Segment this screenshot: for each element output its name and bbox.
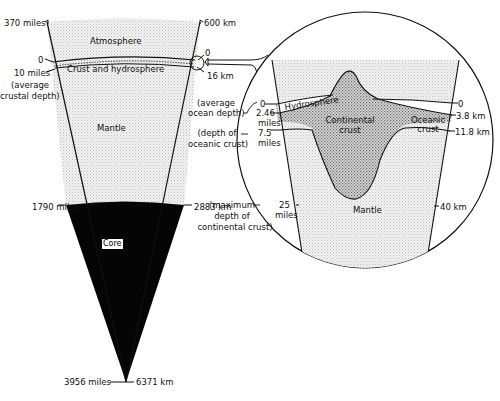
ocean-note-line2: ocean depth): [188, 108, 244, 118]
inset-right-surface: 0: [458, 99, 463, 109]
inset-right-ocean-depth: 3.8 km: [456, 111, 485, 121]
inset-left-oceanic-crust: 7.5: [258, 128, 272, 138]
continental-note-line1: (maximum: [208, 200, 256, 210]
oceanic-note-line1: (depth of: [192, 128, 242, 138]
inset-continental-line1: Continental: [325, 115, 375, 125]
oceanic-note-line2: oceanic crust): [188, 139, 246, 149]
left-scale-center: 3956 miles: [64, 377, 111, 387]
left-scale-surface: 0: [38, 55, 43, 65]
layer-crust-hydrosphere: Crust and hydrosphere: [67, 64, 164, 74]
continental-note-line3: continental crust): [196, 222, 274, 232]
right-scale-center: 6371 km: [136, 377, 174, 387]
inset-right-oceanic-crust: 11.8 km: [455, 127, 490, 137]
right-scale-crust: 16 km: [207, 71, 234, 81]
left-scale-crust: 10 miles: [10, 68, 54, 78]
right-scale-top: 600 km: [204, 18, 236, 28]
left-scale-top: 370 miles: [4, 18, 46, 28]
layer-mantle: Mantle: [97, 123, 126, 133]
layer-atmosphere: Atmosphere: [90, 36, 141, 46]
continental-note-line2: depth of: [208, 211, 256, 221]
crust-note-line1: (average: [4, 80, 56, 90]
earth-layers-diagram: 370 miles 600 km Atmosphere 0 0 Crust an…: [0, 0, 500, 401]
inset-left-ocean-depth-unit: miles: [258, 118, 281, 128]
inset-right-continental-max: 40 km: [440, 202, 467, 212]
inset-left-continental-max: 25: [279, 200, 290, 210]
right-scale-surface: 0: [205, 48, 210, 58]
left-scale-core-boundary: 1790 miles: [32, 202, 79, 212]
layer-core: Core: [102, 239, 123, 249]
inset-left-ocean-depth: 2.46: [256, 108, 275, 118]
inset-left-oceanic-crust-unit: miles: [258, 138, 281, 148]
ocean-note-line1: (average: [190, 98, 242, 108]
inset-continental-line2: crust: [325, 125, 375, 135]
inset-oceanic-line2: crust: [408, 124, 448, 134]
inset-left-continental-max-unit: miles: [275, 210, 298, 220]
inset-layer-mantle: Mantle: [353, 205, 382, 215]
crust-note-line2: crustal depth): [0, 91, 56, 101]
